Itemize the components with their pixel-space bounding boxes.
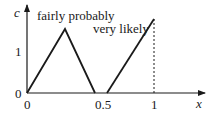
x-tick-0: 0 — [24, 97, 31, 112]
chart: c x 1 0 0 0.5 1 fairly probably very lik… — [0, 0, 217, 116]
y-axis-label: c — [14, 5, 20, 20]
x-tick-1: 1 — [151, 97, 158, 112]
y-tick-0: 0 — [15, 86, 22, 101]
x-tick-0-5: 0.5 — [95, 97, 111, 112]
y-tick-1: 1 — [15, 44, 22, 59]
annotation-very-likely: very likely — [93, 21, 149, 36]
x-axis-label: x — [195, 96, 202, 111]
series-fairly-probably — [27, 29, 95, 93]
